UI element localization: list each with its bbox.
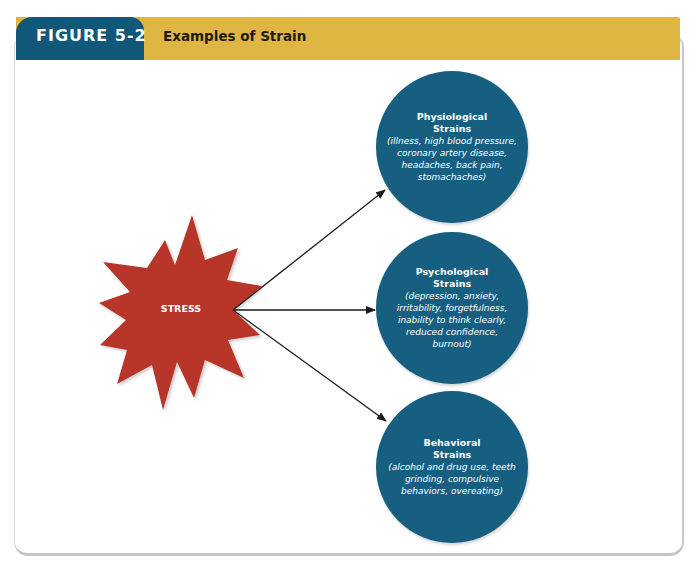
arrow-to-physiological xyxy=(233,190,385,310)
arrow-to-behavioral xyxy=(233,310,386,421)
strain-diagram xyxy=(0,0,700,574)
psychological-strains-node: Psychological Strains (depression, anxie… xyxy=(376,232,528,384)
node-title: Psychological Strains xyxy=(412,266,492,290)
node-description: (alcohol and drug use, teeth grinding, c… xyxy=(386,461,518,497)
stress-label: STRESS xyxy=(150,303,212,314)
node-title: Behavioral Strains xyxy=(412,437,492,461)
node-description: (illness, high blood pressure, coronary … xyxy=(386,135,518,183)
behavioral-strains-node: Behavioral Strains (alcohol and drug use… xyxy=(376,391,528,543)
node-description: (depression, anxiety, irritability, forg… xyxy=(386,290,518,350)
physiological-strains-node: Physiological Strains (illness, high blo… xyxy=(376,71,528,223)
node-title: Physiological Strains xyxy=(412,111,492,135)
